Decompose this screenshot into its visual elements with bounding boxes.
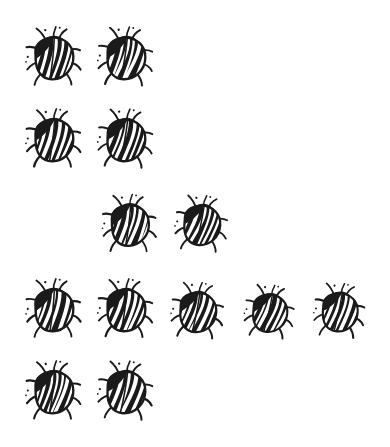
beetle-icon (21, 103, 84, 174)
beetle-icon (93, 21, 156, 92)
beetle-icon (21, 273, 85, 345)
beetle-icon (93, 103, 157, 175)
beetle-icon (166, 276, 228, 345)
beetle-icon (94, 274, 156, 344)
beetle-icon (238, 278, 299, 346)
beetle-icon (98, 189, 160, 259)
beetle-icon (93, 355, 157, 427)
beetle-icon (21, 355, 84, 426)
beetle-icon (308, 277, 369, 345)
beetle-icon (21, 21, 85, 93)
beetle-icon (169, 189, 232, 259)
illustration-canvas (0, 0, 390, 447)
